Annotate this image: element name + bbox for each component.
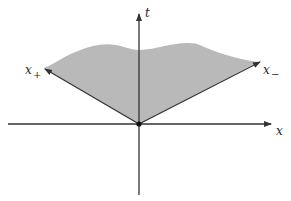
shaded-region bbox=[44, 43, 258, 124]
x-plus-label: x bbox=[25, 63, 32, 77]
x-axis-label: x bbox=[276, 124, 283, 138]
x-minus-label: x bbox=[263, 63, 270, 77]
x-minus-subscript: − bbox=[271, 69, 279, 80]
t-axis-label: t bbox=[145, 6, 150, 20]
diagram-canvas: t x x + x − bbox=[0, 0, 291, 201]
origin-dot bbox=[136, 121, 141, 126]
x-plus-subscript: + bbox=[33, 69, 41, 80]
